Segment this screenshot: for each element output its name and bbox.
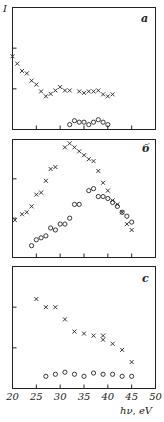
cross-marker [34,83,38,87]
cross-marker [68,141,72,145]
cross-marker [58,85,62,89]
cross-marker [92,159,96,163]
x-tick-label: 25 [29,391,43,402]
cross-marker [20,69,24,73]
cross-marker [68,88,72,92]
cross-marker [101,181,105,185]
panel-c-frame [13,267,156,389]
x-axis-label: hν, eV [120,405,154,416]
panel-a-frame [13,8,156,130]
cross-marker [96,169,100,173]
data-markers [11,54,134,378]
circle-marker [96,118,100,122]
circle-marker [58,222,62,226]
cross-marker [44,94,48,98]
circle-marker [72,372,76,376]
cross-marker [96,88,100,92]
panel-a-label: a [141,12,148,25]
cross-marker [30,79,34,83]
circle-marker [63,222,67,226]
cross-marker [77,89,81,93]
cross-marker [82,153,86,157]
circle-marker [72,119,76,123]
cross-marker [92,89,96,93]
cross-marker [39,89,43,93]
circle-marker [101,372,105,376]
cross-marker [30,204,34,208]
circle-marker [44,374,48,378]
circle-marker [53,228,57,232]
cross-marker [25,71,29,75]
circle-marker [53,372,57,376]
x-tick-label: 50 [149,391,162,402]
circle-marker [44,234,48,238]
cross-marker [106,189,110,193]
circle-marker [39,236,43,240]
cross-marker [49,92,53,96]
x-tick-label: 30 [54,391,67,402]
cross-marker [87,157,91,161]
cross-marker [111,342,115,346]
circle-marker [120,374,124,378]
circle-marker [91,371,95,375]
x-tick-label: 20 [5,391,19,402]
cross-marker [82,91,86,95]
cross-marker [101,92,105,96]
cross-marker [63,145,67,149]
cross-marker [106,94,110,98]
circle-marker [87,123,91,127]
cross-marker [34,297,38,301]
cross-marker [53,305,57,309]
cross-marker [53,88,57,92]
cross-marker [44,179,48,183]
cross-marker [53,165,57,169]
circle-marker [68,123,72,127]
circle-marker [130,374,134,378]
cross-marker [25,210,29,214]
x-tick-labels: 20253035404550 [5,391,162,402]
circle-marker [101,194,105,198]
circle-marker [77,120,81,124]
cross-marker [15,62,19,66]
figure: I a б c 20253035404550 hν, eV [0,0,164,422]
circle-marker [101,120,105,124]
circle-marker [49,226,53,230]
circle-marker [82,374,86,378]
cross-marker [101,334,105,338]
circle-marker [125,214,129,218]
cross-marker [13,218,17,222]
circle-marker [77,202,81,206]
circle-marker [72,202,76,206]
cross-marker [49,167,53,171]
cross-marker [39,191,43,195]
x-tick-label: 35 [78,391,91,402]
cross-marker [34,193,38,197]
x-tick-label: 45 [124,391,138,402]
circle-marker [68,216,72,220]
cross-marker [63,88,67,92]
circle-marker [91,187,95,191]
cross-marker [111,92,115,96]
cross-marker [125,222,129,226]
circle-marker [96,194,100,198]
circle-marker [29,244,33,248]
panel-b-label: б [142,142,150,155]
circle-marker [34,238,38,242]
circle-marker [130,220,134,224]
circle-marker [106,196,110,200]
circle-marker [82,120,86,124]
cross-marker [20,212,24,216]
cross-marker [87,89,91,93]
x-tick-label: 40 [100,391,114,402]
cross-marker [120,348,124,352]
circle-marker [111,372,115,376]
cross-marker [82,332,86,336]
circle-marker [87,189,91,193]
cross-marker [92,334,96,338]
cross-marker [72,330,76,334]
cross-marker [130,360,134,364]
cross-marker [130,228,134,232]
cross-marker [63,317,67,321]
cross-marker [77,149,81,153]
cross-marker [44,305,48,309]
